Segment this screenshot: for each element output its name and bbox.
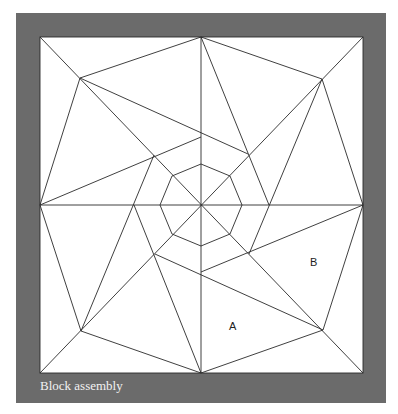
construction-line <box>134 205 201 373</box>
construction-line <box>322 79 363 205</box>
construction-line <box>40 205 81 331</box>
region-label-a: A <box>229 320 236 332</box>
construction-lines <box>40 37 363 373</box>
region-label-b: B <box>310 256 317 268</box>
construction-line <box>40 137 201 205</box>
construction-line <box>201 330 323 373</box>
construction-line <box>81 331 201 373</box>
construction-line <box>80 37 201 78</box>
construction-line <box>201 37 322 79</box>
construction-line <box>201 205 363 272</box>
block-assembly-diagram <box>0 0 398 414</box>
construction-line <box>40 78 80 205</box>
construction-line <box>323 205 363 330</box>
construction-line <box>80 78 248 154</box>
construction-line <box>155 254 323 330</box>
figure-caption: Block assembly <box>40 378 123 394</box>
construction-line <box>81 155 154 331</box>
construction-line <box>201 37 269 205</box>
construction-line <box>249 79 322 254</box>
